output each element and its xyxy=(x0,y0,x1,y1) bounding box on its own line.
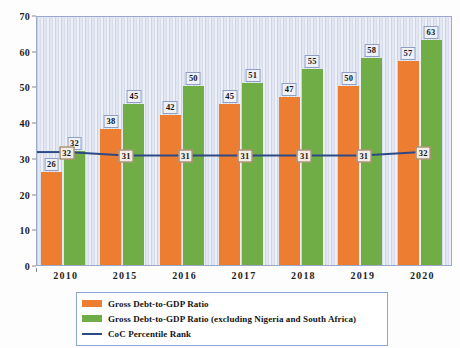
legend-item-coc-percentile-rank: CoC Percentile Rank xyxy=(82,326,382,341)
bar-data-label: 50 xyxy=(341,72,356,85)
x-axis-tick-label: 2020 xyxy=(410,270,435,281)
x-axis-tick-label: 2010 xyxy=(53,270,78,281)
legend-label: Gross Debt-to-GDP Ratio xyxy=(108,299,209,309)
bar-gross-debt-excluding xyxy=(242,83,263,265)
bar-data-label: 47 xyxy=(282,83,297,96)
orange-swatch-icon xyxy=(82,300,102,307)
bar-gross-debt-excluding xyxy=(64,151,85,265)
legend-label: CoC Percentile Rank xyxy=(108,329,191,339)
line-data-label: 32 xyxy=(416,146,431,159)
bar-data-label: 38 xyxy=(103,115,118,128)
line-data-label: 31 xyxy=(297,150,312,163)
bar-group: 5763 xyxy=(394,17,452,265)
x-axis-tick-label: 2019 xyxy=(350,270,375,281)
bar-data-label: 45 xyxy=(126,90,141,103)
line-data-label: 31 xyxy=(178,150,193,163)
bar-gross-debt-excluding xyxy=(302,69,323,265)
bar-gross-debt xyxy=(41,172,62,265)
y-axis-tick-label: 30 xyxy=(0,153,30,164)
legend-label: Gross Debt-to-GDP Ratio (excluding Niger… xyxy=(108,314,356,324)
y-axis-tick-label: 40 xyxy=(0,118,30,129)
x-axis-tick-label: 2016 xyxy=(172,270,197,281)
bar-group: 4250 xyxy=(156,17,215,265)
bar-gross-debt xyxy=(219,104,240,265)
bar-group: 3845 xyxy=(96,17,155,265)
bar-data-label: 50 xyxy=(186,72,201,85)
bar-data-label: 63 xyxy=(424,26,439,39)
bar-gross-debt xyxy=(279,97,300,265)
x-axis: 2010201520162017201820192020 xyxy=(36,268,452,290)
line-swatch-icon xyxy=(82,330,102,337)
legend-item-gross-debt: Gross Debt-to-GDP Ratio xyxy=(82,296,382,311)
y-axis-tick-label: 0 xyxy=(0,261,30,272)
bar-group: 2632 xyxy=(37,17,96,265)
bar-gross-debt-excluding xyxy=(183,86,204,265)
bar-data-label: 45 xyxy=(222,90,237,103)
bar-group: 5058 xyxy=(334,17,393,265)
line-data-label: 32 xyxy=(59,146,74,159)
x-axis-tick-label: 2018 xyxy=(291,270,316,281)
line-data-label: 31 xyxy=(119,150,134,163)
green-swatch-icon xyxy=(82,315,102,322)
bar-group: 4551 xyxy=(215,17,274,265)
y-axis-tick-label: 10 xyxy=(0,225,30,236)
y-axis: 010203040506070 xyxy=(0,16,34,266)
y-axis-tick-label: 20 xyxy=(0,189,30,200)
plot-inner: 2632384542504551475550585763323131313131… xyxy=(37,17,451,265)
bar-data-label: 42 xyxy=(163,101,178,114)
bar-gross-debt xyxy=(398,61,419,265)
x-axis-tick-label: 2015 xyxy=(113,270,138,281)
plot-area: 2632384542504551475550585763323131313131… xyxy=(36,16,452,266)
combo-bar-line-chart: 010203040506070 263238454250455147555058… xyxy=(0,0,460,348)
bar-gross-debt-excluding xyxy=(123,104,144,265)
y-axis-tick-label: 70 xyxy=(0,11,30,22)
bar-data-label: 26 xyxy=(44,158,59,171)
line-data-label: 31 xyxy=(238,150,253,163)
x-axis-origin-mark xyxy=(36,268,37,272)
y-axis-tick-label: 50 xyxy=(0,82,30,93)
legend-item-gross-debt-excluding: Gross Debt-to-GDP Ratio (excluding Niger… xyxy=(82,311,382,326)
bar-data-label: 51 xyxy=(245,69,260,82)
bar-data-label: 58 xyxy=(364,44,379,57)
bar-gross-debt xyxy=(160,115,181,265)
line-data-label: 31 xyxy=(356,150,371,163)
bar-group: 4755 xyxy=(275,17,334,265)
chart-legend: Gross Debt-to-GDP Ratio Gross Debt-to-GD… xyxy=(76,292,388,346)
x-axis-tick-label: 2017 xyxy=(232,270,257,281)
bar-gross-debt xyxy=(338,86,359,265)
bar-data-label: 57 xyxy=(401,47,416,60)
bar-data-label: 55 xyxy=(305,55,320,68)
y-axis-tick-label: 60 xyxy=(0,46,30,57)
